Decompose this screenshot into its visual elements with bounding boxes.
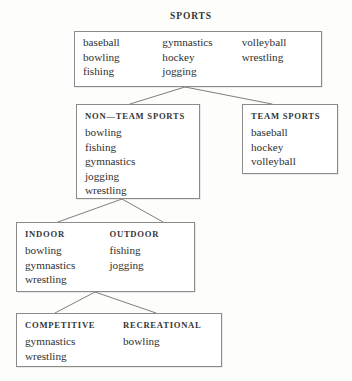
- node-outdoor-column: OUTDOOR fishing jogging: [110, 227, 195, 291]
- list-item: hockey: [162, 50, 241, 65]
- connector-sports-to-nonteam: [130, 87, 185, 104]
- list-item: hockey: [251, 140, 337, 155]
- node-sports-column-3: volleyball wrestling: [242, 35, 321, 86]
- list-item: baseball: [83, 35, 162, 50]
- list-item: gymnastics: [162, 35, 241, 50]
- list-item: jogging: [110, 258, 195, 273]
- node-non-team-sports: NON—TEAM SPORTS bowling fishing gymnasti…: [76, 104, 200, 199]
- diagram-canvas: SPORTS baseball bowling fishing gymnasti…: [0, 0, 352, 381]
- list-item: gymnastics: [25, 258, 110, 273]
- connector-sports-to-team: [185, 87, 272, 104]
- list-item: volleyball: [242, 35, 321, 50]
- list-item: fishing: [85, 140, 199, 155]
- node-competitive-recreational: COMPETITIVE gymnastics wrestling RECREAT…: [16, 313, 222, 367]
- list-item: gymnastics: [25, 334, 123, 349]
- node-non-team-sports-column-1: NON—TEAM SPORTS bowling fishing gymnasti…: [85, 109, 199, 198]
- list-item: wrestling: [25, 349, 123, 364]
- list-item: wrestling: [242, 50, 321, 65]
- node-indoor-header: INDOOR: [25, 227, 110, 241]
- list-item: wrestling: [25, 272, 110, 287]
- node-competitive-column: COMPETITIVE gymnastics wrestling: [25, 318, 123, 366]
- connector-nonteam-to-outdoor: [122, 199, 163, 222]
- list-item: bowling: [83, 50, 162, 65]
- connector-indoor-to-recreational: [95, 292, 156, 313]
- node-outdoor-header: OUTDOOR: [110, 227, 195, 241]
- node-sports: baseball bowling fishing gymnastics hock…: [74, 31, 322, 87]
- list-item: bowling: [25, 243, 110, 258]
- list-item: baseball: [251, 125, 337, 140]
- node-indoor-outdoor: INDOOR bowling gymnastics wrestling OUTD…: [16, 222, 195, 292]
- node-team-sports-header: TEAM SPORTS: [251, 109, 337, 123]
- connector-nonteam-to-indoor: [58, 199, 122, 222]
- node-recreational-column: RECREATIONAL bowling: [123, 318, 221, 366]
- node-competitive-header: COMPETITIVE: [25, 318, 123, 332]
- node-team-sports-column-1: TEAM SPORTS baseball hockey volleyball: [251, 109, 337, 173]
- node-sports-column-1: baseball bowling fishing: [83, 35, 162, 86]
- list-item: wrestling: [85, 183, 199, 198]
- list-item: gymnastics: [85, 154, 199, 169]
- list-item: fishing: [110, 243, 195, 258]
- diagram-title: SPORTS: [170, 11, 212, 21]
- connector-indoor-to-competitive: [55, 292, 95, 313]
- list-item: bowling: [85, 125, 199, 140]
- list-item: bowling: [123, 334, 221, 349]
- node-non-team-sports-header: NON—TEAM SPORTS: [85, 109, 199, 123]
- node-indoor-column: INDOOR bowling gymnastics wrestling: [25, 227, 110, 291]
- node-team-sports: TEAM SPORTS baseball hockey volleyball: [242, 104, 338, 174]
- list-item: fishing: [83, 64, 162, 79]
- list-item: jogging: [85, 169, 199, 184]
- node-recreational-header: RECREATIONAL: [123, 318, 221, 332]
- list-item: jogging: [162, 64, 241, 79]
- list-item: volleyball: [251, 154, 337, 169]
- node-sports-column-2: gymnastics hockey jogging: [162, 35, 241, 86]
